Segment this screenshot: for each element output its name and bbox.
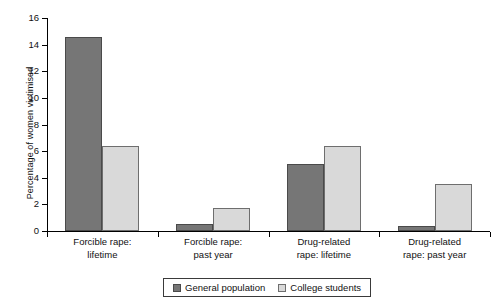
y-tick: 10 bbox=[42, 98, 47, 99]
y-tick-label: 10 bbox=[28, 91, 39, 104]
y-tick-label: 0 bbox=[34, 224, 39, 237]
x-category-label: Drug-relatedrape: lifetime bbox=[269, 236, 380, 261]
legend-swatch-icon bbox=[278, 284, 286, 292]
bar bbox=[398, 226, 435, 231]
legend-label: General population bbox=[185, 282, 265, 293]
x-category-label-line: Forcible rape: bbox=[47, 236, 158, 249]
bar bbox=[435, 184, 472, 231]
legend-swatch-icon bbox=[173, 284, 181, 292]
y-tick: 2 bbox=[42, 204, 47, 205]
y-tick: 4 bbox=[42, 178, 47, 179]
bar-chart: Percentage of women victimised 024681012… bbox=[0, 0, 503, 307]
bar bbox=[102, 146, 139, 231]
legend-item-general-population: General population bbox=[173, 282, 265, 293]
x-category-label: Forcible rape:past year bbox=[158, 236, 269, 261]
x-category-label-line: Drug-related bbox=[269, 236, 380, 249]
legend-item-college-students: College students bbox=[278, 282, 361, 293]
x-category-label-line: Forcible rape: bbox=[158, 236, 269, 249]
x-category-label-line: Drug-related bbox=[379, 236, 490, 249]
bar bbox=[65, 37, 102, 231]
y-tick: 14 bbox=[42, 45, 47, 46]
y-tick: 16 bbox=[42, 18, 47, 19]
legend-label: College students bbox=[290, 282, 361, 293]
x-category-label-line: rape: past year bbox=[379, 249, 490, 262]
bar bbox=[213, 208, 250, 231]
y-axis-line bbox=[47, 18, 48, 232]
y-tick-label: 2 bbox=[34, 197, 39, 210]
x-category-label-line: rape: lifetime bbox=[269, 249, 380, 262]
y-tick: 6 bbox=[42, 151, 47, 152]
y-tick-label: 8 bbox=[34, 118, 39, 131]
bar bbox=[287, 164, 324, 231]
y-tick-label: 6 bbox=[34, 144, 39, 157]
y-tick-label: 4 bbox=[34, 171, 39, 184]
x-tick bbox=[490, 232, 491, 237]
x-category-label: Drug-relatedrape: past year bbox=[379, 236, 490, 261]
plot-area: 0246810121416 bbox=[47, 18, 490, 232]
y-tick-label: 12 bbox=[28, 64, 39, 77]
y-tick: 12 bbox=[42, 71, 47, 72]
x-category-label-line: lifetime bbox=[47, 249, 158, 262]
x-category-label: Forcible rape:lifetime bbox=[47, 236, 158, 261]
bar bbox=[176, 224, 213, 231]
y-tick: 8 bbox=[42, 125, 47, 126]
legend: General population College students bbox=[163, 278, 371, 297]
y-tick-label: 16 bbox=[28, 11, 39, 24]
y-tick-label: 14 bbox=[28, 38, 39, 51]
bar bbox=[324, 146, 361, 231]
x-category-label-line: past year bbox=[158, 249, 269, 262]
